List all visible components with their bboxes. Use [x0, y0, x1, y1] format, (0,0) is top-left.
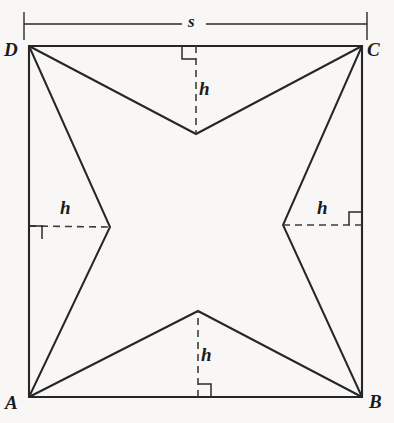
height-label-right: h	[317, 198, 328, 217]
vertex-label-d: D	[4, 40, 18, 59]
star-triangle-bottom	[29, 311, 362, 397]
side-length-label-s: s	[188, 13, 195, 30]
right-angle-mark-right	[349, 212, 362, 225]
vertex-label-c: C	[367, 40, 380, 59]
vertex-label-a: A	[5, 393, 18, 412]
geometry-figure: D C A B s h h h h	[0, 0, 394, 423]
height-label-bottom: h	[201, 345, 212, 364]
right-angle-mark-top	[182, 46, 196, 59]
right-angle-mark-bottom	[198, 384, 211, 397]
height-label-top: h	[199, 79, 210, 98]
height-label-left: h	[60, 198, 71, 217]
star-triangle-right	[283, 46, 362, 397]
dimension-line-s	[24, 12, 367, 40]
right-angle-mark-left	[29, 226, 42, 239]
vertex-label-b: B	[369, 392, 382, 411]
star-triangle-left	[29, 46, 110, 397]
